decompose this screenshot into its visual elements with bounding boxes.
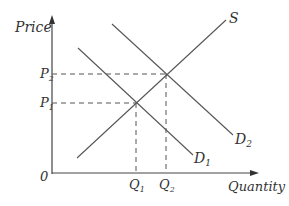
d2-label: D2 [234, 131, 252, 149]
x-axis-arrow-icon [250, 170, 259, 176]
supply-demand-chart: Price Quantity 0 S D1 D2 P2 P1 Q1 Q2 [0, 0, 289, 206]
q2-label: Q2 [159, 177, 175, 194]
demand-curve-d2 [112, 24, 233, 135]
x-axis-label: Quantity [228, 179, 286, 194]
origin-label: 0 [40, 169, 48, 184]
supply-label: S [229, 10, 239, 26]
demand-curve-d1 [78, 48, 193, 155]
q1-label: Q1 [129, 177, 145, 194]
supply-curve [77, 20, 226, 158]
y-axis-label: Price [14, 19, 52, 35]
d1-label: D1 [193, 150, 211, 168]
